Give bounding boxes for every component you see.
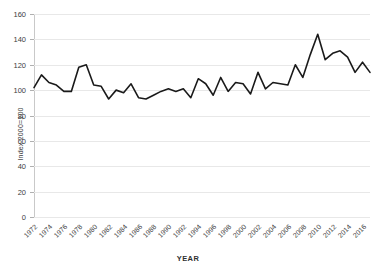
y-axis-tick-label: 140 <box>0 35 26 44</box>
y-axis-tick-label: 20 <box>0 187 26 196</box>
y-axis-tick-label: 160 <box>0 10 26 19</box>
y-axis-tick-label: 60 <box>0 136 26 145</box>
y-axis-tick-label: 100 <box>0 86 26 95</box>
x-axis-title: YEAR <box>0 254 376 263</box>
y-axis-tick-label: 40 <box>0 162 26 171</box>
y-axis-tick-label: 80 <box>0 111 26 120</box>
line-chart: Index 2000=100 020406080100120140160 197… <box>0 0 376 267</box>
plot-area <box>34 14 370 217</box>
y-axis-tick-label: 0 <box>0 213 26 222</box>
y-axis-tick-label: 120 <box>0 60 26 69</box>
series-line <box>34 14 370 217</box>
gridline <box>34 217 370 218</box>
